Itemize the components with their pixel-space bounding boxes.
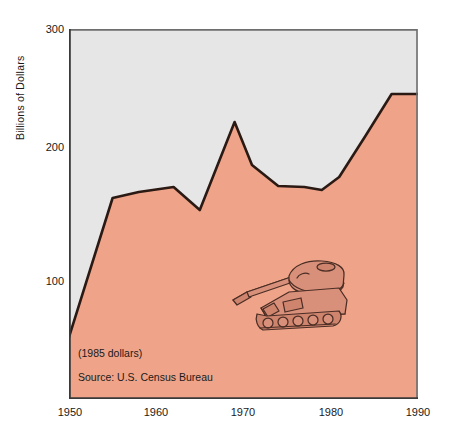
x-tick-1960: 1960 bbox=[135, 407, 177, 418]
note-source: Source: U.S. Census Bureau bbox=[78, 372, 213, 383]
x-tick-1950: 1950 bbox=[49, 407, 91, 418]
chart-notes: (1985 dollars) Source: U.S. Census Burea… bbox=[78, 348, 213, 395]
y-tick-300: 300 bbox=[24, 24, 64, 35]
x-axis-tick-labels: 1950 1960 1970 1980 1990 bbox=[0, 407, 470, 427]
y-axis-tick-labels: 300 200 100 bbox=[20, 0, 64, 441]
defense-spending-area-chart: Billions of Dollars 300 200 100 bbox=[0, 0, 470, 441]
note-currency-basis: (1985 dollars) bbox=[78, 348, 213, 359]
y-tick-100: 100 bbox=[24, 276, 64, 287]
x-tick-1980: 1980 bbox=[310, 407, 352, 418]
x-tick-1970: 1970 bbox=[222, 407, 264, 418]
y-tick-200: 200 bbox=[24, 142, 64, 153]
x-tick-1990: 1990 bbox=[397, 407, 439, 418]
tank-illustration bbox=[227, 256, 351, 344]
